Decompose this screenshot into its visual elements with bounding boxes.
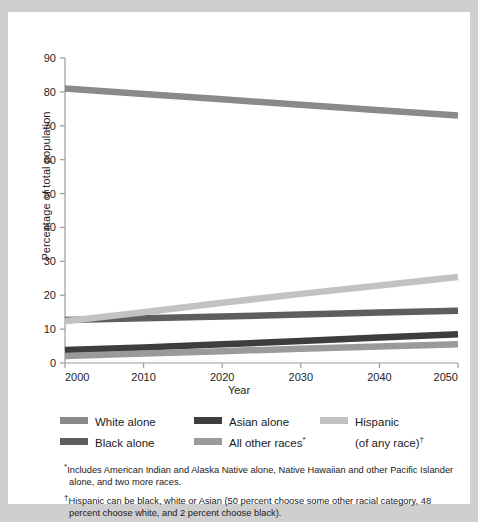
chart-card: 0102030405060708090200020102020203020402… (8, 12, 470, 504)
footnote: *Includes American Indian and Alaska Nat… (64, 461, 464, 488)
legend-item: All other races* (194, 433, 306, 450)
y-tick-label: 0 (50, 357, 56, 369)
legend-label: All other races* (229, 437, 306, 449)
y-tick-label: 20 (44, 289, 56, 301)
legend-item: White alone (60, 412, 156, 429)
series-layer (65, 89, 458, 356)
legend-footnote-marker: * (303, 435, 306, 444)
x-tick-label: 2010 (131, 371, 155, 383)
legend-label: White alone (95, 416, 156, 428)
legend-swatch (194, 438, 222, 445)
legend-swatch (194, 417, 222, 424)
footnote-text: Hispanic can be black, white or Asian (5… (68, 496, 431, 518)
legend-label: Hispanic (355, 416, 399, 428)
legend-item: Black alone (60, 433, 156, 450)
legend-column-2: Asian aloneAll other races* (194, 412, 306, 454)
legend-column-1: White aloneBlack alone (60, 412, 156, 454)
y-tick-label: 10 (44, 323, 56, 335)
x-tick-label: 2030 (289, 371, 313, 383)
legend-swatch (320, 417, 348, 424)
legend-column-3: Hispanic(of any race)† (320, 412, 424, 450)
x-tick-label: 2020 (210, 371, 234, 383)
x-axis-label: Year (8, 384, 470, 396)
legend-label: Black alone (95, 437, 154, 449)
series-line (65, 89, 458, 116)
legend-footnote-marker: † (420, 435, 424, 444)
footnotes: *Includes American Indian and Alaska Nat… (64, 461, 464, 522)
x-tick-label: 2000 (65, 371, 89, 383)
legend-swatch (60, 417, 88, 424)
plot-area: 0102030405060708090200020102020203020402… (8, 12, 470, 412)
x-tick-label: 2050 (434, 371, 458, 383)
chart-legend: White aloneBlack alone Asian aloneAll ot… (60, 412, 460, 456)
footnote: †Hispanic can be black, white or Asian (… (64, 492, 464, 519)
y-axis-label: Percentage of total population (40, 86, 52, 286)
legend-label: Asian alone (229, 416, 289, 428)
legend-sublabel: (of any race)† (355, 433, 424, 450)
legend-item: Asian alone (194, 412, 306, 429)
legend-swatch (60, 438, 88, 445)
legend-item: Hispanic (320, 412, 424, 429)
line-chart-svg: 0102030405060708090200020102020203020402… (8, 12, 470, 412)
y-tick-label: 90 (44, 52, 56, 64)
footnote-text: Includes American Indian and Alaska Nati… (67, 465, 453, 487)
x-tick-label: 2040 (367, 371, 391, 383)
